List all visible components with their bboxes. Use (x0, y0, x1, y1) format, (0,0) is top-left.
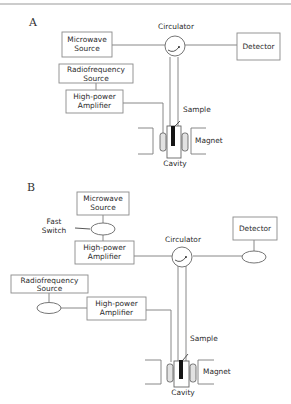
svg-text:Amplifier: Amplifier (88, 252, 122, 261)
fast-switch-icon (91, 223, 115, 235)
cavity: Cavity (160, 126, 188, 168)
fast-switch: Fast Switch (42, 217, 115, 235)
panel-b: B Microwave Source Fast Switch High-powe… (11, 181, 277, 397)
detector-box: Detector (237, 33, 280, 60)
panel-a: A Microwave Source Circulator Detector R… (28, 16, 280, 168)
magnet-pole-left (138, 128, 153, 154)
detector-switch-icon (242, 251, 266, 263)
sample-callout: Sample (183, 334, 218, 360)
sample-callout: Sample (175, 105, 211, 126)
svg-text:Microwave: Microwave (67, 35, 107, 44)
microwave-source-box: Microwave Source (77, 192, 129, 215)
fast-switch-arrow-icon (75, 228, 90, 229)
magnet-label: Magnet (195, 136, 223, 145)
sample-icon (171, 126, 175, 146)
circulator: Circulator (158, 22, 195, 56)
sample-arrow-icon (183, 354, 188, 360)
svg-text:Amplifier: Amplifier (78, 101, 112, 110)
detector-box: Detector (233, 217, 277, 240)
circulator-label: Circulator (165, 235, 202, 244)
svg-text:Detector: Detector (242, 42, 275, 51)
magnet-pole-left (145, 360, 161, 384)
svg-text:Fast: Fast (47, 217, 62, 226)
rf-source-box: Radiofrequency Source (11, 275, 88, 293)
panel-a-label: A (28, 16, 38, 29)
high-power-amplifier-box: High-power Amplifier (66, 90, 123, 113)
sample-label: Sample (183, 105, 211, 114)
rf-switch-icon (37, 303, 61, 314)
sample-label: Sample (190, 334, 218, 343)
circulator: Circulator (165, 235, 202, 267)
circulator-icon (165, 36, 185, 56)
coil-right-icon (182, 133, 188, 151)
high-power-amplifier-mw-box: High-power Amplifier (75, 241, 134, 264)
svg-text:Source: Source (83, 74, 109, 83)
cavity-label: Cavity (163, 159, 187, 168)
circulator-label: Circulator (158, 22, 195, 31)
wire-rf-amp-to-cavity (146, 310, 171, 362)
wire-amp-to-cavity (123, 103, 163, 150)
coil-left-icon (167, 364, 173, 382)
svg-text:High-power: High-power (83, 243, 126, 252)
svg-text:Microwave: Microwave (83, 194, 123, 203)
cavity-label: Cavity (171, 388, 195, 397)
high-power-amplifier-rf-box: High-power Amplifier (87, 297, 146, 320)
circulator-icon (172, 247, 192, 267)
svg-text:Source: Source (90, 203, 116, 212)
coil-right-icon (190, 364, 196, 382)
microwave-source-box: Microwave Source (62, 32, 112, 57)
svg-text:Switch: Switch (42, 226, 67, 235)
svg-text:Detector: Detector (239, 224, 272, 233)
svg-text:High-power: High-power (95, 299, 138, 308)
sample-arrow-icon (175, 121, 180, 126)
cavity: Cavity (167, 360, 196, 397)
svg-text:Source: Source (37, 284, 63, 293)
svg-text:Amplifier: Amplifier (100, 308, 134, 317)
svg-text:Source: Source (74, 44, 100, 53)
magnet-label: Magnet (203, 367, 231, 376)
esr-block-diagram: A Microwave Source Circulator Detector R… (0, 0, 291, 404)
coil-left-icon (160, 133, 166, 151)
panel-b-label: B (27, 181, 35, 194)
rf-source-box: Radiofrequency Source (59, 64, 133, 83)
sample-icon (179, 360, 183, 379)
